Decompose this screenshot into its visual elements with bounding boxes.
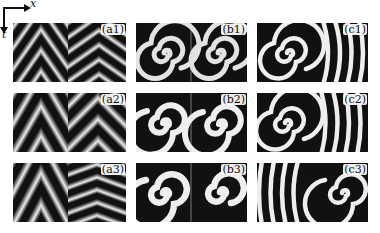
t-axis-arrow-line: [3, 7, 5, 29]
panel-label-c1: (c1): [343, 24, 367, 35]
panel-label-b2: (b2): [221, 94, 246, 105]
panel-label-a3: (a3): [101, 164, 125, 175]
panel-c3: (c3): [257, 163, 368, 222]
panel-label-a2: (a2): [101, 94, 125, 105]
panel-b1: (b1): [136, 23, 247, 82]
panel-c1: (c1): [257, 23, 368, 82]
panel-label-a1: (a1): [101, 24, 125, 35]
panel-a3: (a3): [13, 163, 126, 222]
panel-b3: (b3): [136, 163, 247, 222]
panel-c2: (c2): [257, 93, 368, 152]
x-axis-arrow-line: [3, 7, 25, 9]
panel-b2: (b2): [136, 93, 247, 152]
panel-label-c3: (c3): [343, 164, 367, 175]
panel-a1: (a1): [13, 23, 126, 82]
panel-label-c2: (c2): [343, 94, 367, 105]
x-axis-label: x: [30, 0, 36, 10]
t-axis-label: t: [2, 28, 6, 41]
panel-label-b3: (b3): [221, 164, 246, 175]
panel-a2: (a2): [13, 93, 126, 152]
panel-label-b1: (b1): [221, 24, 246, 35]
